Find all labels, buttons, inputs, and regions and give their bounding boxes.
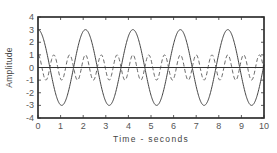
x-tick-label: 2 bbox=[81, 121, 86, 131]
y-tick-label: 1 bbox=[29, 50, 34, 60]
x-axis-ticks: 012345678910 bbox=[35, 17, 269, 131]
y-tick-label: 2 bbox=[29, 37, 34, 47]
y-tick-label: -2 bbox=[26, 88, 34, 98]
x-tick-label: 5 bbox=[148, 121, 153, 131]
y-tick-label: -4 bbox=[26, 113, 34, 123]
x-tick-label: 9 bbox=[239, 121, 244, 131]
y-axis-title: Amplitude bbox=[4, 47, 14, 88]
x-tick-label: 7 bbox=[194, 121, 199, 131]
x-tick-label: 6 bbox=[171, 121, 176, 131]
x-tick-label: 4 bbox=[126, 121, 131, 131]
chart: 012345678910 43210-1-2-3-4 Time - second… bbox=[0, 0, 277, 153]
x-tick-label: 8 bbox=[216, 121, 221, 131]
y-tick-label: 3 bbox=[29, 25, 34, 35]
x-axis-title: Time - seconds bbox=[113, 134, 189, 144]
x-tick-label: 10 bbox=[259, 121, 269, 131]
x-tick-label: 3 bbox=[103, 121, 108, 131]
x-tick-label: 0 bbox=[35, 121, 40, 131]
x-tick-label: 1 bbox=[58, 121, 63, 131]
y-tick-label: 4 bbox=[29, 12, 34, 22]
y-tick-label: 0 bbox=[29, 63, 34, 73]
y-tick-label: -3 bbox=[26, 100, 34, 110]
y-tick-label: -1 bbox=[26, 75, 34, 85]
